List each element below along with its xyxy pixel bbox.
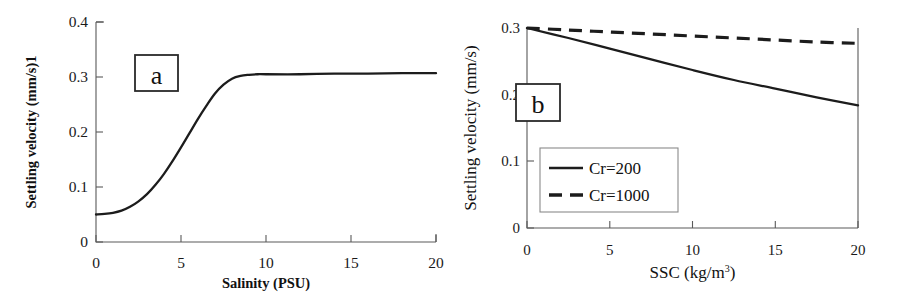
panel-a-y-axis-title: Settling velocity (mm/s)1: [23, 55, 40, 208]
panel-b-xtick-3: 15: [768, 242, 783, 258]
panel-b-svg: 0 0.1 0.2 0.3 0 5 10 15 20 SSC (kg/m3) S…: [450, 0, 899, 300]
panel-b-ytick-0: 0: [513, 220, 521, 236]
panel-b-ytick-1: 0.1: [501, 153, 520, 169]
panel-b-x-axis-title-main: SSC (kg/m: [650, 263, 725, 282]
panel-b-y-tick-labels: 0 0.1 0.2 0.3: [501, 20, 520, 236]
panel-a-tag: a: [135, 55, 178, 91]
panel-b-xtick-4: 20: [851, 242, 866, 258]
panel-a-ytick-2: 0.2: [69, 123, 88, 140]
panel-a-y-ticks: [96, 22, 103, 242]
panel-a-xtick-2: 10: [258, 254, 274, 271]
panel-a-ytick-3: 0.3: [69, 68, 89, 85]
panel-b-legend: Cr=200 Cr=1000: [540, 148, 678, 212]
panel-a-svg: 0 0.1 0.2 0.3 0.4 0 5 10 15 20 Salinity …: [0, 0, 450, 300]
panel-b-x-axis-title: SSC (kg/m3): [650, 263, 736, 282]
panel-b-xtick-2: 10: [685, 242, 700, 258]
panel-b-y-axis-title: Settling velocity (mm/s): [461, 45, 480, 210]
panel-b-x-tick-labels: 0 5 10 15 20: [523, 242, 865, 258]
figure-two-panel-settling-velocity: 0 0.1 0.2 0.3 0.4 0 5 10 15 20 Salinity …: [0, 0, 899, 300]
panel-a-ytick-4: 0.4: [69, 13, 89, 30]
panel-a-y-tick-labels: 0 0.1 0.2 0.3 0.4: [69, 13, 89, 250]
panel-a-x-axis-title: Salinity (PSU): [222, 275, 310, 292]
panel-a-tag-label: a: [151, 61, 163, 90]
panel-b-x-ticks: [527, 221, 858, 228]
chart-panel-b: 0 0.1 0.2 0.3 0 5 10 15 20 SSC (kg/m3) S…: [450, 0, 899, 300]
panel-a-data-line-settling-velocity: [96, 73, 436, 214]
panel-a-xtick-4: 20: [428, 254, 444, 271]
panel-a-xtick-3: 15: [343, 254, 359, 271]
panel-b-xtick-1: 5: [606, 242, 614, 258]
panel-b-ytick-3: 0.3: [501, 20, 520, 36]
panel-b-y-ticks: [527, 28, 534, 228]
chart-panel-a: 0 0.1 0.2 0.3 0.4 0 5 10 15 20 Salinity …: [0, 0, 450, 300]
panel-a-ytick-0: 0: [80, 233, 88, 250]
legend-label-cr-200: Cr=200: [589, 159, 641, 178]
panel-a-xtick-0: 0: [92, 254, 100, 271]
panel-a-xtick-1: 5: [177, 254, 185, 271]
panel-b-data-line-cr-200: [527, 28, 858, 105]
panel-b-tag: b: [516, 84, 560, 121]
panel-b-tag-label: b: [532, 90, 545, 119]
legend-label-cr-1000: Cr=1000: [589, 186, 650, 205]
panel-a-x-ticks: [96, 235, 436, 242]
panel-b-xtick-0: 0: [523, 242, 531, 258]
panel-b-x-axis-title-tail: ): [730, 263, 736, 282]
panel-a-x-tick-labels: 0 5 10 15 20: [92, 254, 444, 271]
panel-a-ytick-1: 0.1: [69, 178, 88, 195]
